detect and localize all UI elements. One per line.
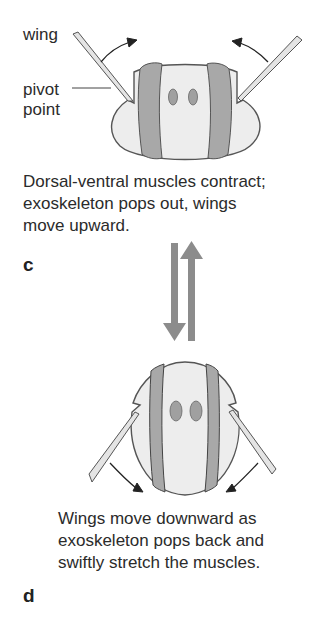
thorax-downstroke bbox=[131, 362, 239, 495]
pivot-point-label-line2: point bbox=[23, 99, 60, 120]
upward-motion-arrows bbox=[101, 38, 268, 62]
caption-d-line1: Wings move downward as bbox=[58, 508, 256, 529]
caption-d-line2: exoskeleton pops back and bbox=[58, 530, 264, 551]
cycle-arrows-icon bbox=[163, 241, 203, 341]
panel-label-d: d bbox=[23, 585, 35, 607]
caption-c-line3: move upward. bbox=[23, 215, 130, 236]
panel-label-c: c bbox=[23, 254, 34, 276]
caption-c-line2: exoskeleton pops out, wings bbox=[23, 193, 237, 214]
wing-left-up bbox=[73, 32, 133, 101]
wing-label: wing bbox=[23, 24, 58, 45]
caption-c-line1: Dorsal-ventral muscles contract; bbox=[23, 171, 266, 192]
wing-left-down bbox=[89, 412, 139, 482]
pivot-point-label-line1: pivot bbox=[23, 79, 59, 100]
caption-d-line3: swiftly stretch the muscles. bbox=[58, 552, 260, 573]
thorax-upstroke bbox=[112, 63, 260, 160]
